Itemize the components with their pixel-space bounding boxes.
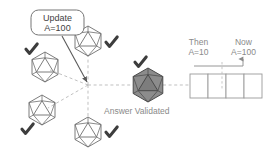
check-icon-upper-left: [26, 44, 37, 53]
check-icon-top-center: [106, 37, 117, 46]
timeline-cell-0[interactable]: [190, 74, 208, 98]
icosahedron-node-bottom-center[interactable]: [75, 117, 101, 147]
timeline-then-title: Then: [189, 37, 208, 47]
timeline-cell-2[interactable]: [226, 74, 244, 98]
timeline-now-label: NowA=100: [221, 38, 266, 57]
update-callout-label: UpdateA=100: [31, 13, 84, 33]
update-callout-line1: Update: [43, 13, 72, 23]
icosahedron-node-upper-left[interactable]: [32, 52, 58, 82]
update-callout-line2: A=100: [44, 23, 70, 33]
answer-validated-caption: Answer Validated: [104, 107, 170, 117]
timeline-then-value: A=10: [188, 47, 208, 57]
icosahedron-node-lower-left[interactable]: [29, 95, 55, 125]
icosahedron-node-validated[interactable]: [133, 68, 163, 102]
update-arrow: [62, 36, 87, 82]
timeline-then-label: ThenA=10: [176, 38, 221, 57]
check-icon-lower-left: [22, 124, 33, 133]
check-icon-validated: [135, 57, 146, 66]
timeline-cell-3[interactable]: [244, 74, 262, 98]
check-icon-bottom-center: [106, 127, 117, 136]
timeline-now-value: A=100: [231, 47, 256, 57]
diagram-canvas: UpdateA=100 Answer Validated ThenA=10 No…: [0, 0, 271, 159]
timeline-cell-1[interactable]: [208, 74, 226, 98]
timeline-cells: [190, 74, 262, 98]
timeline-now-title: Now: [235, 37, 252, 47]
